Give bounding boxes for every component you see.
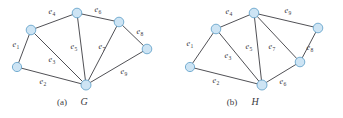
caption-name-0: G xyxy=(80,96,87,107)
graph-edge-b-e2 xyxy=(190,67,262,85)
edge-label-b-e5: e5 xyxy=(246,42,253,52)
graph-vertex-a-v5 xyxy=(142,44,152,54)
edge-label-a-e2: e2 xyxy=(40,77,47,87)
graph-edge-b-e1 xyxy=(190,29,216,67)
edge-label-a-e8: e8 xyxy=(137,27,144,37)
graph-vertex-b-w3 xyxy=(249,8,259,18)
edge-label-a-e3: e3 xyxy=(49,55,56,65)
graph-edge-b-e7 xyxy=(254,13,300,62)
caption-index-0: (a) xyxy=(57,97,67,107)
graph-canvas: e1e2e3e4e5e6e7e8e9e1e2e3e4e5e6e7e8e9 (a)… xyxy=(0,0,343,118)
edge-labels-layer: e1e2e3e4e5e6e7e8e9e1e2e3e4e5e6e7e8e9 xyxy=(13,5,314,87)
graph-vertex-a-v1 xyxy=(12,62,21,71)
graph-edge-a-e2 xyxy=(17,67,86,85)
graph-figure: e1e2e3e4e5e6e7e8e9e1e2e3e4e5e6e7e8e9 (a)… xyxy=(0,0,343,118)
graph-vertex-a-v6 xyxy=(81,80,91,90)
edge-label-a-e6: e6 xyxy=(95,5,102,15)
edge-label-b-e9: e9 xyxy=(285,6,292,16)
edge-label-a-e1: e1 xyxy=(13,40,20,50)
graph-edge-b-e3 xyxy=(216,29,262,85)
captions-layer: (a)G(b)H xyxy=(57,96,259,107)
graph-vertex-b-w4 xyxy=(313,23,323,33)
graph-vertex-a-v4 xyxy=(114,17,124,27)
edge-label-b-e8: e8 xyxy=(307,43,314,53)
graph-vertex-b-w2 xyxy=(211,24,221,34)
graph-edge-a-e5 xyxy=(77,13,86,85)
edge-label-b-e7: e7 xyxy=(269,42,276,52)
graph-vertex-a-v2 xyxy=(26,25,36,35)
graph-edge-b-e9 xyxy=(254,13,318,28)
graph-vertex-b-w6 xyxy=(257,80,267,90)
edge-label-b-e1: e1 xyxy=(187,39,194,49)
caption-name-1: H xyxy=(250,96,259,107)
edge-label-b-e2: e2 xyxy=(213,76,220,86)
edge-label-b-e4: e4 xyxy=(226,7,233,17)
graph-vertex-b-w5 xyxy=(295,57,305,67)
edge-label-b-e3: e3 xyxy=(225,51,232,61)
graph-edge-b-e5 xyxy=(254,13,262,85)
edge-label-a-e7: e7 xyxy=(99,42,106,52)
edge-label-a-e9: e9 xyxy=(121,67,128,77)
edge-label-b-e6: e6 xyxy=(280,77,287,87)
graph-vertex-b-w1 xyxy=(185,62,194,71)
edge-label-a-e4: e4 xyxy=(49,7,56,17)
graph-vertex-a-v3 xyxy=(72,8,82,18)
caption-index-1: (b) xyxy=(227,97,238,107)
graph-edge-b-e4 xyxy=(216,13,254,29)
edge-label-a-e5: e5 xyxy=(71,42,78,52)
